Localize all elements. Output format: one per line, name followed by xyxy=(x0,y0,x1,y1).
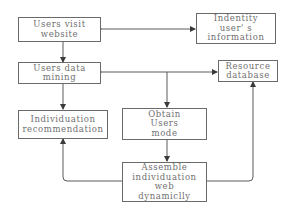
node-resource-database: Resource database xyxy=(218,60,278,82)
node-users-visit-website: Users visit website xyxy=(18,17,101,42)
node-assemble-individuation-web: Assemble individuation web dynamiclly xyxy=(122,162,207,202)
node-identity-user-information: Indentity user' s information xyxy=(196,13,276,44)
node-label-line: mode xyxy=(151,129,177,139)
node-obtain-users-mode: Obtain Users mode xyxy=(122,108,207,140)
node-label-line: dynamiclly xyxy=(138,192,191,202)
node-label-line: mining xyxy=(43,73,77,83)
node-label-line: recommendation xyxy=(22,125,103,135)
node-individuation-recommendation: Individuation recommendation xyxy=(18,110,108,139)
node-label-line: website xyxy=(41,30,78,40)
node-users-data-mining: Users data mining xyxy=(18,62,101,84)
flowchart-canvas: Users visit website Indentity user' s in… xyxy=(0,0,301,209)
node-label-line: information xyxy=(208,33,265,43)
edge-assemble-recommend xyxy=(63,139,122,181)
edge-assemble-resource xyxy=(206,82,253,181)
node-label-line: database xyxy=(226,71,270,81)
